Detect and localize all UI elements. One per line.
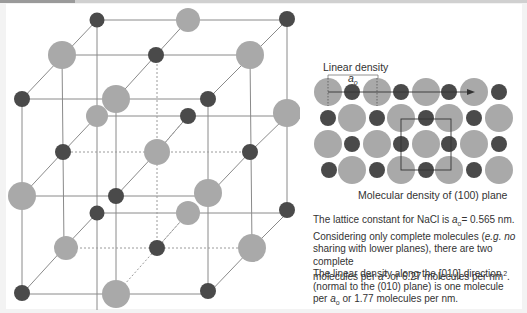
linear-density-paragraph: The linear density along the [010] direc…	[313, 268, 523, 310]
plane-caption: Molecular density of (100) plane	[358, 189, 507, 201]
a0-label: ao	[348, 72, 358, 86]
